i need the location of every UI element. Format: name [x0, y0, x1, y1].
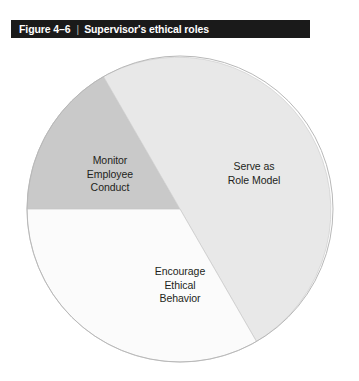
pie-chart: Monitor Employee Conduct Serve as Role M… [0, 42, 359, 381]
figure-header-separator: | [77, 24, 80, 35]
pie-chart-svg [0, 42, 359, 381]
figure-header-bar: Figure 4–6 | Supervisor's ethical roles [11, 20, 310, 38]
figure-number: Figure 4–6 [19, 23, 71, 35]
pie-label-serve-as-role-model: Serve as Role Model [196, 160, 312, 187]
figure-title: Supervisor's ethical roles [84, 23, 209, 35]
pie-label-monitor-employee-conduct: Monitor Employee Conduct [52, 154, 168, 195]
pie-label-encourage-ethical-behavior: Encourage Ethical Behavior [122, 265, 238, 306]
